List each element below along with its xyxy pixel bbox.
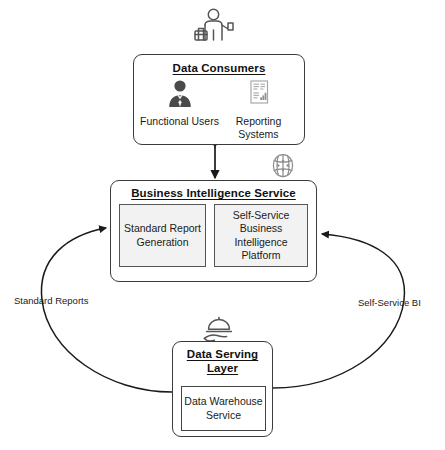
component-self-service-bi-platform[interactable]: Self-Service Business Intelligence Platf… — [214, 204, 308, 267]
business-intelligence-service-title: Business Intelligence Service — [111, 187, 316, 199]
consumer-reporting-systems[interactable]: Reporting Systems — [219, 79, 298, 140]
diagram-canvas: Data Consumers Functional U — [0, 0, 445, 450]
consumer-functional-users[interactable]: Functional Users — [140, 79, 219, 128]
component-standard-report-generation[interactable]: Standard Report Generation — [119, 204, 206, 267]
data-serving-layer-title: Data Serving Layer — [173, 347, 272, 375]
edge-label-self-service-bi: Self-Service BI — [358, 297, 421, 308]
edge-label-standard-reports: Standard Reports — [14, 295, 88, 306]
node-business-intelligence-service[interactable]: Business Intelligence Service Standard R… — [110, 180, 317, 282]
bi-service-components: Standard Report Generation Self-Service … — [111, 199, 316, 267]
consumer-label-functional-users: Functional Users — [140, 115, 219, 128]
component-data-warehouse-service[interactable]: Data Warehouse Service — [181, 386, 266, 431]
user-tie-icon — [166, 79, 194, 113]
data-consumers-title: Data Consumers — [134, 62, 304, 74]
data-consumers-items: Functional Users — [134, 79, 304, 140]
node-data-consumers[interactable]: Data Consumers Functional U — [133, 54, 305, 145]
business-person-icon — [192, 6, 236, 52]
node-data-serving-layer[interactable]: Data Serving Layer Data Warehouse Servic… — [172, 341, 273, 437]
report-document-icon — [246, 79, 272, 113]
consumer-label-reporting-systems: Reporting Systems — [219, 115, 298, 140]
